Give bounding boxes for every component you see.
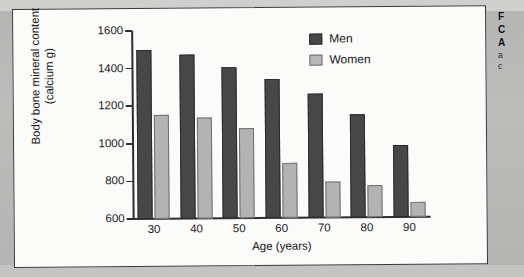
chart-area: 6008001000120014001600 Body bone mineral… [13,6,487,267]
y-tick-label-1200: 1200 [80,100,124,112]
y-tick-label-800: 800 [80,176,124,188]
bar-men-30 [137,50,153,219]
x-tick-label-80: 80 [347,221,387,233]
y-tick-label-1600: 1600 [79,25,123,37]
figure-caption: FCAac [498,10,524,80]
bar-men-60 [265,79,281,218]
legend-label-women: Women [329,52,370,66]
bar-men-40 [179,54,195,219]
x-tick-label-90: 90 [389,221,429,233]
y-axis-title-line1: Body bone mineral content [29,8,42,145]
bar-women-30 [154,114,170,218]
y-tick-label-1000: 1000 [80,138,124,150]
legend-swatch-women-icon [309,54,322,65]
figure-panel: 6008001000120014001600 Body bone mineral… [12,5,488,268]
chart-legend: MenWomen [309,31,370,73]
bar-women-60 [282,163,297,218]
x-tick-label-60: 60 [262,222,302,234]
x-axis-title: Age (years) [133,239,431,253]
legend-swatch-men-icon [309,33,322,44]
caption-line-1: F [498,10,524,23]
x-tick-label-50: 50 [219,222,259,234]
bar-women-70 [325,182,340,218]
bar-men-50 [222,67,238,218]
caption-line-4: a [498,50,524,61]
legend-item-women: Women [309,52,370,66]
caption-line-5: c [498,61,524,72]
y-axis-title: Body bone mineral content (calcium g) [27,0,57,161]
y-axis-title-line2: (calcium g) [43,48,55,104]
x-tick-label-30: 30 [134,223,174,235]
caption-line-2: C [498,23,524,36]
bar-men-80 [350,114,366,218]
bar-women-50 [239,128,255,218]
bar-women-80 [368,185,383,217]
y-tick-label-600: 600 [81,213,125,225]
legend-label-men: Men [329,31,352,45]
y-axis-tick-labels: 6008001000120014001600 [73,9,125,266]
bar-men-90 [393,145,409,217]
plot-bars [131,29,430,219]
x-tick-label-40: 40 [177,222,217,234]
y-tick-label-1400: 1400 [79,63,123,75]
bar-women-40 [197,118,213,219]
bar-women-90 [410,202,425,217]
legend-item-men: Men [309,31,370,45]
x-tick-label-70: 70 [304,221,344,233]
bar-men-70 [307,93,323,217]
page-background: 6008001000120014001600 Body bone mineral… [0,0,524,277]
caption-line-3: A [498,36,524,49]
